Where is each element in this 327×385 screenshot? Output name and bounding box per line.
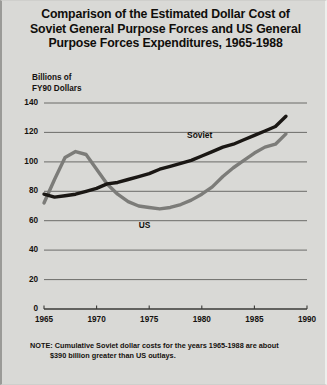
chart-note-line-2: $390 billion greater than US outlays. — [30, 351, 310, 361]
y-tick-label: 100 — [12, 157, 38, 166]
y-tick-label: 0 — [12, 304, 38, 313]
series-line-us — [44, 134, 286, 209]
y-tick-label: 60 — [12, 216, 38, 225]
y-tick-label: 80 — [12, 186, 38, 195]
y-tick-label: 120 — [12, 127, 38, 136]
chart-figure: Comparison of the Estimated Dollar Cost … — [0, 0, 327, 385]
chart-note: NOTE: Cumulative Soviet dollar costs for… — [30, 341, 310, 360]
y-tick-label: 40 — [12, 245, 38, 254]
chart-svg — [2, 1, 327, 385]
series-label-us: US — [139, 220, 151, 230]
x-tick-label: 1990 — [287, 315, 327, 324]
chart-note-line-1: NOTE: Cumulative Soviet dollar costs for… — [30, 341, 279, 350]
x-tick-label: 1985 — [234, 315, 274, 324]
x-tick-label: 1970 — [77, 315, 117, 324]
plot-area — [2, 1, 327, 385]
x-tick-label: 1965 — [24, 315, 64, 324]
y-tick-label: 140 — [12, 98, 38, 107]
y-tick-label: 20 — [12, 275, 38, 284]
x-tick-label: 1975 — [129, 315, 169, 324]
series-label-soviet: Soviet — [187, 130, 212, 140]
x-tick-label: 1980 — [182, 315, 222, 324]
